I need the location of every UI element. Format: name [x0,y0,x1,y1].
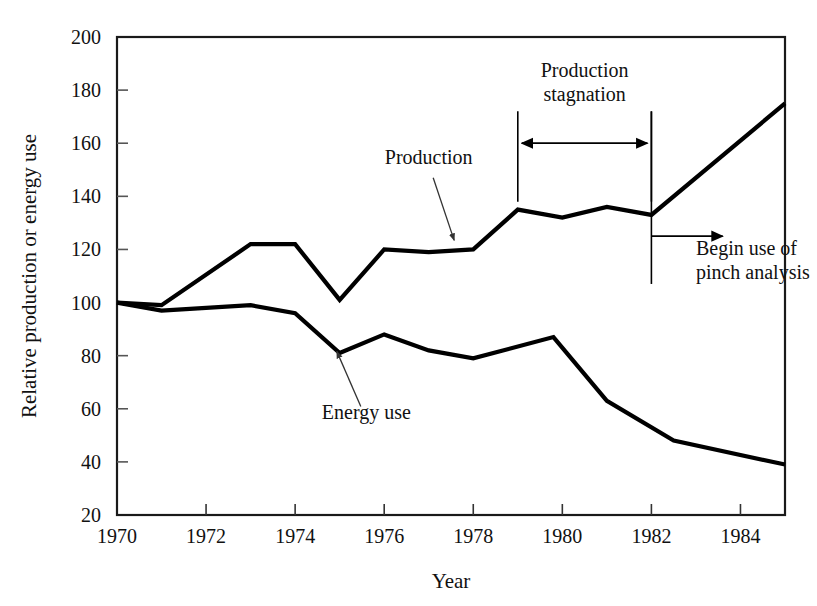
series-line-production [117,103,785,305]
stagnation-text-line-2: stagnation [543,83,625,106]
x-tick-label-1978: 1978 [453,525,493,547]
series-line-energy-use [117,303,785,465]
figure-container: 2040608010012014016018020019701972197419… [0,0,817,606]
y-tick-label-180: 180 [71,79,101,101]
pinch-text-line-1: Begin use of [696,237,797,260]
production-label-leader-arrow [433,178,454,241]
y-axis-title: Relative production or energy use [17,134,41,418]
x-tick-label-1982: 1982 [631,525,671,547]
y-tick-label-120: 120 [71,238,101,260]
stagnation-text-line-1: Production [541,59,629,81]
y-tick-label-80: 80 [81,345,101,367]
energy-use-label-text: Energy use [322,401,411,424]
energy-use-label-leader-arrow [337,351,361,406]
pinch-text-line-2: pinch analysis [696,261,810,284]
line-chart: 2040608010012014016018020019701972197419… [0,0,817,606]
x-tick-label-1976: 1976 [364,525,404,547]
y-tick-label-20: 20 [81,504,101,526]
y-tick-label-160: 160 [71,132,101,154]
y-tick-label-100: 100 [71,292,101,314]
production-label-text: Production [385,146,473,168]
y-tick-label-60: 60 [81,398,101,420]
x-axis-title: Year [432,569,471,593]
y-tick-label-40: 40 [81,451,101,473]
x-tick-label-1980: 1980 [542,525,582,547]
y-tick-label-140: 140 [71,185,101,207]
y-tick-label-200: 200 [71,26,101,48]
x-tick-label-1984: 1984 [720,525,760,547]
x-tick-label-1970: 1970 [97,525,137,547]
x-tick-label-1974: 1974 [275,525,315,547]
x-tick-label-1972: 1972 [186,525,226,547]
